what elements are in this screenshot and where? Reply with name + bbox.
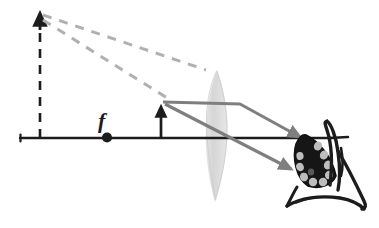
focal-point-marker (102, 132, 112, 142)
backward-extension-lower-ray (43, 20, 172, 101)
backward-extension-upper-ray (43, 15, 206, 70)
optics-ray-diagram-figure: f (0, 0, 379, 228)
eye-lash-mark (330, 137, 348, 138)
eye-iris-edge (341, 148, 343, 176)
ray-parallel-to-axis (163, 102, 300, 137)
ray-through-lens-center (165, 104, 291, 169)
observer-eye (287, 121, 365, 209)
eye-lower-lid (287, 197, 364, 209)
focal-point-label: f (98, 110, 105, 132)
diagram-canvas (0, 0, 379, 228)
optical-axis (20, 135, 332, 142)
virtual-ray-extensions (43, 15, 206, 101)
refracted-rays (163, 102, 300, 169)
